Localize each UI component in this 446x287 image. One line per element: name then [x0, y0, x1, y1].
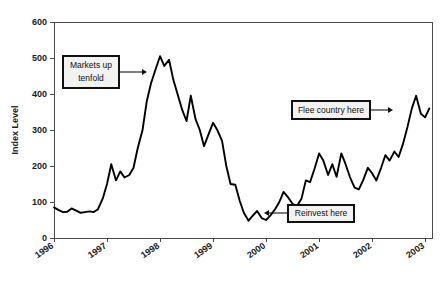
y-tick-label: 300 [32, 125, 47, 135]
annotation-text-reinvest-here: Reinvest here [295, 208, 348, 218]
y-tick-label: 400 [32, 89, 47, 99]
annotation-text-markets-up-tenfold-line2: tenfold [78, 73, 104, 83]
index-level-line-chart: 0100200300400500600 19961997199819992000… [0, 0, 446, 287]
x-tick-label: 1996 [33, 240, 55, 260]
y-tick-label: 100 [32, 197, 47, 207]
chart-annotations: Markets uptenfoldFlee country hereReinve… [63, 56, 393, 222]
y-axis-title: Index Level [10, 105, 20, 154]
x-tick-label: 1999 [192, 240, 214, 260]
annotation-markets-up-tenfold: Markets uptenfold [63, 56, 147, 88]
x-tick-label: 2002 [351, 240, 373, 260]
x-axis-ticks: 19961997199819992000200120022003 [33, 238, 426, 260]
chart-axes [54, 22, 432, 238]
x-tick-label: 1997 [86, 240, 108, 260]
x-tick-label: 2003 [404, 240, 426, 260]
x-tick-label: 2000 [245, 240, 267, 260]
x-tick-label: 2001 [298, 240, 320, 260]
annotation-text-flee-country-here: Flee country here [298, 105, 364, 115]
y-axis-label-text: Index Level [10, 105, 20, 154]
y-tick-label: 600 [32, 17, 47, 27]
x-tick-label: 1998 [139, 240, 161, 260]
annotation-reinvest-here: Reinvest here [264, 205, 354, 222]
annotation-arrowhead-reinvest-here [264, 210, 269, 216]
annotation-text-markets-up-tenfold: Markets up [70, 60, 112, 70]
y-tick-label: 500 [32, 53, 47, 63]
annotation-flee-country-here: Flee country here [292, 101, 393, 119]
y-axis-ticks: 0100200300400500600 [32, 17, 54, 243]
plot-frame [54, 22, 432, 238]
y-tick-label: 200 [32, 161, 47, 171]
annotation-arrowhead-markets-up-tenfold [142, 69, 147, 75]
chart-container: 0100200300400500600 19961997199819992000… [0, 0, 446, 287]
annotation-arrowhead-flee-country-here [388, 107, 393, 113]
